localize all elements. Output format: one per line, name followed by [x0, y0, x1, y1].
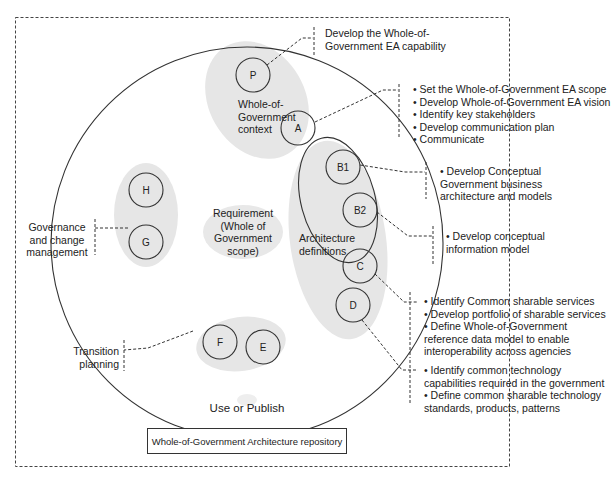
use-or-publish-label: Use or Publish: [197, 402, 297, 415]
annotation-A-item: • Set the Whole-of-Government EA scope: [413, 83, 610, 96]
governance-group-label: Governance and change management: [22, 221, 92, 259]
annotation-B2-line: • Develop conceptual: [446, 230, 545, 243]
governance-line-2: and change: [22, 234, 92, 247]
annotation-D-line: • Identify common technology: [424, 364, 604, 377]
architecture-group-label: Architecture definitions: [299, 232, 355, 257]
node-label-B1: B1: [326, 150, 360, 184]
annotation-A: • Set the Whole-of-Government EA scope •…: [413, 83, 610, 146]
connector-B1: [360, 165, 425, 172]
annotation-B1-line: • Develop Conceptual: [440, 165, 552, 178]
annotation-C-line: • Define Whole-of-Government: [424, 320, 606, 333]
node-label-P: P: [236, 58, 270, 92]
node-label-F: F: [203, 325, 237, 359]
annotation-A-item: • Identify key stakeholders: [413, 108, 610, 121]
annotation-P-line: Develop the Whole-of-: [325, 27, 446, 40]
requirement-line-2: (Whole of: [203, 220, 283, 233]
context-line-2: Government: [238, 111, 296, 124]
repository-box[interactable]: Whole-of-Government Architecture reposit…: [147, 428, 347, 454]
annotation-C-line: interoperability across agencies: [424, 345, 606, 358]
annotation-B1-line: architecture and models: [440, 190, 552, 203]
annotation-A-item: • Communicate: [413, 133, 610, 146]
requirement-group-label: Requirement (Whole of Government scope): [203, 207, 283, 257]
connector-A: [315, 90, 398, 122]
context-line-3: context: [238, 123, 296, 136]
annotation-C: • Identify Common sharable services • De…: [424, 295, 606, 358]
node-label-B2: B2: [343, 193, 377, 227]
node-label-D: D: [336, 288, 370, 322]
connector-transition: [124, 331, 193, 350]
governance-line-3: management: [22, 246, 92, 259]
architecture-line-1: Architecture: [299, 232, 355, 245]
annotation-B2: • Develop conceptual information model: [446, 230, 545, 255]
context-line-1: Whole-of-: [238, 98, 296, 111]
annotation-D-line: standards, products, patterns: [424, 402, 604, 415]
annotation-D-line: capabilities required in the government: [424, 377, 604, 390]
governance-line-1: Governance: [22, 221, 92, 234]
transition-group-label: Transition planning: [55, 345, 119, 370]
architecture-line-2: definitions: [299, 245, 355, 258]
requirement-line-4: scope): [203, 245, 283, 258]
requirement-line-1: Requirement: [203, 207, 283, 220]
annotation-D: • Identify common technology capabilitie…: [424, 364, 604, 414]
node-label-H: H: [129, 173, 163, 207]
annotation-B2-line: information model: [446, 243, 545, 256]
annotation-C-line: reference data model to enable: [424, 333, 606, 346]
annotation-D-line: • Define common sharable technology: [424, 389, 604, 402]
annotation-C-line: • Identify Common sharable services: [424, 295, 606, 308]
annotation-B1: • Develop Conceptual Government business…: [440, 165, 552, 203]
annotation-C-line: • Develop portfolio of sharable services: [424, 308, 606, 321]
repository-label: Whole-of-Government Architecture reposit…: [152, 436, 343, 447]
requirement-line-3: Government: [203, 232, 283, 245]
annotation-P: Develop the Whole-of- Government EA capa…: [325, 27, 446, 52]
annotation-P-line: Government EA capability: [325, 40, 446, 53]
annotation-A-item: • Develop communication plan: [413, 121, 610, 134]
node-label-E: E: [246, 330, 280, 364]
annotation-B1-line: Government business: [440, 178, 552, 191]
context-group-label: Whole-of- Government context: [238, 98, 296, 136]
annotation-A-item: • Develop Whole-of-Government EA vision: [413, 96, 610, 109]
transition-line-2: planning: [55, 358, 119, 371]
node-label-G: G: [129, 225, 163, 259]
transition-line-1: Transition: [55, 345, 119, 358]
